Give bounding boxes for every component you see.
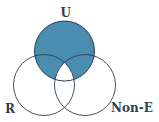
venn-diagram: U R Non-E — [0, 0, 159, 122]
set-r-label: R — [5, 102, 16, 116]
set-non-e-label: Non-E — [111, 101, 153, 115]
set-u-label: U — [61, 6, 72, 20]
